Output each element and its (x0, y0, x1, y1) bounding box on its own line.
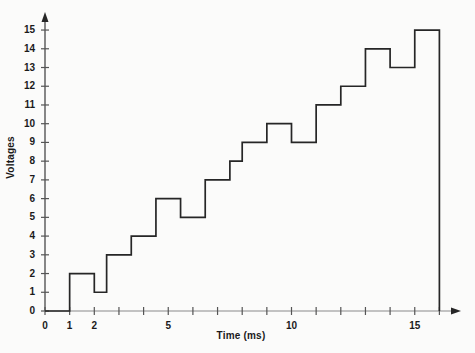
x-tick-label: 10 (281, 320, 303, 331)
y-tick-label: 14 (13, 43, 35, 54)
y-axis-arrow-icon (42, 12, 49, 22)
step-chart (0, 0, 475, 353)
x-tick-label: 0 (34, 320, 56, 331)
y-tick-label: 8 (13, 155, 35, 166)
y-tick-label: 10 (13, 118, 35, 129)
y-tick-label: 5 (13, 211, 35, 222)
y-tick-label: 11 (13, 99, 35, 110)
y-tick-label: 13 (13, 62, 35, 73)
y-tick-label: 4 (13, 230, 35, 241)
x-tick-label: 5 (157, 320, 179, 331)
x-axis-arrow-icon (451, 308, 461, 315)
x-tick-label: 1 (59, 320, 81, 331)
x-axis-title: Time (ms) (186, 330, 296, 341)
y-tick-label: 6 (13, 193, 35, 204)
y-tick-label: 12 (13, 80, 35, 91)
y-tick-label: 3 (13, 249, 35, 260)
y-tick-label: 2 (13, 268, 35, 279)
y-tick-label: 9 (13, 136, 35, 147)
y-tick-label: 7 (13, 174, 35, 185)
y-tick-label: 0 (13, 305, 35, 316)
y-tick-label: 15 (13, 24, 35, 35)
x-tick-label: 2 (83, 320, 105, 331)
step-series-line (45, 30, 439, 311)
x-tick-label: 15 (404, 320, 426, 331)
y-tick-label: 1 (13, 286, 35, 297)
plot-axes (42, 12, 462, 315)
